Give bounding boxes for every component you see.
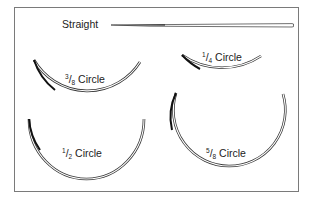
straight-label-text: Straight [62, 18, 98, 30]
label-numerator: 1 [202, 51, 206, 58]
straight-needle [111, 24, 294, 27]
one-half-label: 1/2 Circle [62, 148, 102, 161]
label-word: Circle [78, 73, 105, 85]
needles-drawing [0, 0, 315, 206]
label-numerator: 1 [62, 147, 66, 154]
label-denominator: 4 [209, 57, 213, 64]
label-numerator: 5 [206, 147, 210, 154]
label-denominator: 8 [213, 153, 217, 160]
three-eighths-label: 3/8 Circle [65, 74, 105, 87]
label-word: Circle [219, 147, 246, 159]
label-denominator: 8 [72, 79, 76, 86]
label-numerator: 3 [65, 73, 69, 80]
label-word: Circle [215, 51, 242, 63]
one-quarter-label: 1/4 Circle [202, 52, 242, 65]
five-eighths-label: 5/8 Circle [206, 148, 246, 161]
label-denominator: 2 [69, 153, 73, 160]
straight-label: Straight [62, 19, 98, 30]
label-word: Circle [75, 147, 102, 159]
